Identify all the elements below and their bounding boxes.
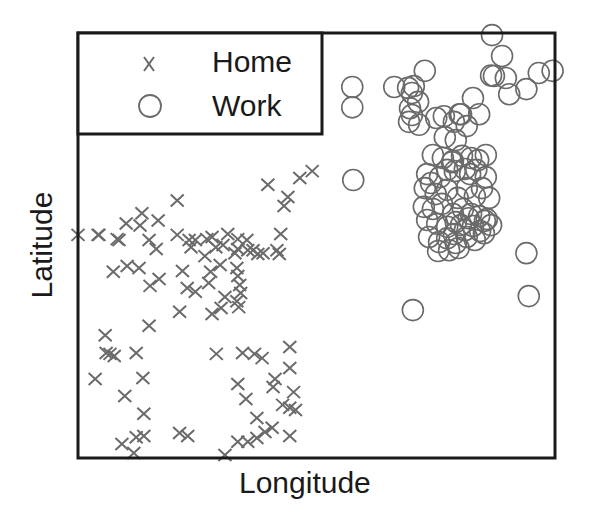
- home-point-x-icon: [137, 408, 150, 420]
- work-point-circle-icon: [482, 25, 503, 46]
- home-point-x-icon: [92, 229, 105, 241]
- work-point-circle-icon: [475, 167, 496, 188]
- home-point-x-icon: [258, 426, 271, 438]
- work-point-circle-icon: [342, 97, 363, 118]
- home-point-x-icon: [171, 229, 184, 241]
- scatter-plot: [0, 0, 590, 520]
- work-point-circle-icon: [434, 127, 455, 148]
- work-point-circle-icon: [402, 300, 423, 321]
- legend-home-label: Home: [212, 45, 292, 79]
- home-point-x-icon: [250, 412, 263, 424]
- home-point-x-icon: [115, 438, 128, 450]
- home-point-x-icon: [173, 306, 186, 318]
- home-point-x-icon: [248, 348, 261, 360]
- home-point-x-icon: [143, 320, 156, 332]
- home-point-x-icon: [176, 265, 189, 277]
- home-point-x-icon: [144, 280, 157, 292]
- home-point-x-icon: [261, 179, 274, 191]
- home-point-x-icon: [293, 172, 306, 184]
- work-point-circle-icon: [475, 144, 496, 165]
- home-point-x-icon: [210, 348, 223, 360]
- home-point-x-icon: [135, 207, 148, 219]
- home-point-x-icon: [287, 386, 300, 398]
- home-point-x-icon: [121, 260, 134, 272]
- home-point-x-icon: [236, 347, 249, 359]
- work-point-circle-icon: [516, 243, 537, 264]
- x-axis-label: Longitude: [239, 466, 371, 500]
- work-point-circle-icon: [492, 45, 513, 66]
- home-point-x-icon: [118, 390, 131, 402]
- home-point-x-icon: [152, 214, 165, 226]
- home-point-x-icon: [306, 165, 319, 177]
- series-home: [72, 165, 319, 461]
- home-point-x-icon: [214, 259, 227, 271]
- home-point-x-icon: [206, 308, 219, 320]
- home-point-x-icon: [153, 273, 166, 285]
- home-point-x-icon: [206, 231, 219, 243]
- work-point-circle-icon: [495, 68, 516, 89]
- home-point-x-icon: [89, 373, 102, 385]
- home-point-x-icon: [120, 217, 133, 229]
- home-point-x-icon: [215, 302, 228, 314]
- home-point-x-icon: [231, 378, 244, 390]
- work-point-circle-icon: [518, 286, 539, 307]
- home-point-x-icon: [113, 234, 126, 246]
- home-point-x-icon: [99, 329, 112, 341]
- work-point-circle-icon: [528, 62, 549, 83]
- home-point-x-icon: [283, 362, 296, 374]
- home-point-x-icon: [137, 430, 150, 442]
- home-point-x-icon: [133, 262, 146, 274]
- home-point-x-icon: [136, 372, 149, 384]
- home-point-x-icon: [204, 266, 217, 278]
- home-point-x-icon: [283, 430, 296, 442]
- home-point-x-icon: [218, 291, 231, 303]
- work-point-circle-icon: [343, 170, 364, 191]
- home-point-x-icon: [270, 244, 283, 256]
- home-point-x-icon: [130, 347, 143, 359]
- work-point-circle-icon: [542, 60, 563, 81]
- home-point-x-icon: [228, 247, 241, 259]
- home-point-x-icon: [273, 248, 286, 260]
- home-point-x-icon: [171, 194, 184, 206]
- legend-work-label: Work: [212, 89, 281, 123]
- home-point-x-icon: [239, 393, 252, 405]
- home-point-x-icon: [107, 266, 120, 278]
- home-point-x-icon: [269, 373, 282, 385]
- series-work: [342, 25, 563, 321]
- home-point-x-icon: [267, 381, 280, 393]
- home-point-x-icon: [202, 277, 215, 289]
- home-point-x-icon: [143, 234, 156, 246]
- home-point-x-icon: [256, 352, 269, 364]
- work-point-circle-icon: [456, 116, 477, 137]
- work-point-circle-icon: [414, 60, 435, 81]
- y-axis-label: Latitude: [25, 185, 59, 305]
- home-point-x-icon: [283, 341, 296, 353]
- home-point-x-icon: [134, 220, 147, 232]
- work-point-circle-icon: [342, 76, 363, 97]
- home-point-x-icon: [274, 228, 287, 240]
- home-point-x-icon: [150, 243, 163, 255]
- home-point-x-icon: [266, 422, 279, 434]
